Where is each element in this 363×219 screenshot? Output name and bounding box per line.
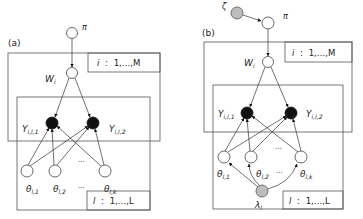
plate-i-label: i : 1,…,M (292, 48, 335, 58)
node-pi (262, 17, 274, 29)
edge-t2-y1 (247, 119, 250, 151)
node-theta2 (245, 151, 257, 163)
label-theta1: θl,1 (26, 184, 39, 195)
node-theta1 (21, 165, 33, 177)
label-zeta: ζ (221, 2, 227, 11)
node-w (263, 57, 274, 68)
edge-tk-y2 (293, 119, 301, 151)
label-thetak: θl,k (104, 184, 117, 195)
label-lambda: λl (254, 200, 262, 211)
label-pi: π (82, 23, 87, 32)
label-y2: Yi,l,2 (306, 109, 323, 120)
label-y1: Yi,l,1 (218, 109, 234, 120)
node-y2 (87, 117, 99, 129)
plate-i-label: i : 1,…,M (97, 58, 140, 68)
edge-t2-y2 (253, 117, 287, 151)
panel-a: (a) i : 1,…,M l : 1,…,L π Wi Y (8, 23, 160, 210)
node-zeta (231, 7, 243, 19)
label-y2: Yi,l,2 (109, 124, 126, 135)
node-w (67, 68, 78, 79)
graphical-model-diagram: (a) i : 1,…,M l : 1,…,L π Wi Y (0, 0, 363, 219)
label-w: Wi (45, 74, 56, 85)
ellipsis-nodes: ··· (275, 145, 282, 153)
edge-lambda-t1 (229, 163, 258, 187)
label-theta2: θl,2 (256, 169, 269, 180)
label-thetak: θl,k (300, 169, 313, 180)
edge-tk-y2 (95, 129, 104, 165)
node-y1 (46, 117, 58, 129)
plate-l-label: l : 1,…,L (289, 196, 330, 206)
edge-w-y1 (250, 67, 265, 107)
panel-a-label: (a) (8, 38, 21, 48)
node-theta2 (49, 165, 61, 177)
node-thetak (99, 165, 111, 177)
panel-b-label: (b) (202, 28, 215, 38)
ellipsis-labels: ··· (276, 169, 283, 177)
ellipsis-nodes: ··· (78, 158, 85, 166)
edge-w-y2 (75, 78, 90, 117)
label-theta1: θl,1 (217, 169, 230, 180)
node-y2 (285, 107, 297, 119)
edge-w-y2 (271, 67, 288, 107)
edge-zeta-pi (243, 15, 261, 21)
node-lambda (256, 185, 268, 197)
ellipsis-labels: ··· (78, 184, 85, 192)
edge-w-y1 (55, 78, 69, 117)
node-theta1 (218, 151, 230, 163)
plate-l-label: l : 1,…,L (93, 196, 134, 206)
label-y1: Yi,l,1 (22, 124, 38, 135)
node-thetak (295, 151, 307, 163)
panel-b: (b) i : 1,…,M l : 1,…,L ζ (202, 2, 352, 211)
node-y1 (241, 107, 253, 119)
edge-t1-y1 (225, 118, 244, 151)
edge-t2-y1 (52, 129, 54, 165)
label-pi: π (283, 12, 288, 21)
label-theta2: θl,2 (53, 184, 66, 195)
node-pi (67, 28, 78, 39)
label-w: Wi (244, 58, 255, 69)
